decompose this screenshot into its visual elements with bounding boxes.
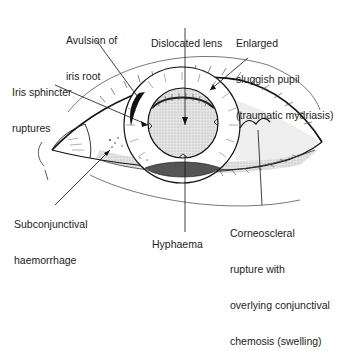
label-line: chemosis (swelling) [230, 335, 330, 347]
label-avulsion-of-iris-root: Avulsion of iris root [66, 10, 117, 106]
label-line: haemorrhage [14, 254, 88, 266]
label-line: sluggish pupil [236, 73, 333, 85]
label-enlarged-pupil: Enlarged sluggish pupil (traumatic mydri… [236, 13, 333, 145]
label-line: ruptures [12, 122, 72, 134]
label-corneoscleral-rupture: Corneoscleral rupture with overlying con… [230, 203, 330, 351]
label-subconjunctival-haemorrhage: Subconjunctival haemorrhage [14, 194, 88, 290]
label-line: (traumatic mydriasis) [236, 109, 333, 121]
label-line: Iris sphincter [12, 86, 72, 98]
label-iris-sphincter-ruptures: Iris sphincter ruptures [12, 62, 72, 158]
label-line: overlying conjunctival [230, 299, 330, 311]
label-line: rupture with [230, 263, 330, 275]
label-line: Corneoscleral [230, 227, 330, 239]
label-line: iris root [66, 70, 117, 82]
label-hyphaema: Hyphaema [152, 214, 203, 274]
label-line: Hyphaema [152, 238, 203, 250]
label-dislocated-lens: Dislocated lens [151, 13, 222, 73]
label-line: Dislocated lens [151, 37, 222, 49]
label-line: Avulsion of [66, 34, 117, 46]
label-line: Subconjunctival [14, 218, 88, 230]
label-line: Enlarged [236, 37, 333, 49]
